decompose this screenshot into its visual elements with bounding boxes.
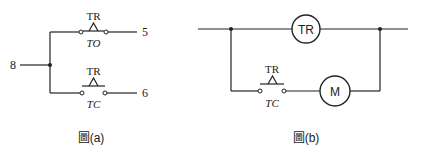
- terminal-6-label: 6: [142, 86, 148, 100]
- junction-dot: [48, 63, 52, 67]
- coil-label: TR: [298, 23, 314, 37]
- upper-contact-relay-label: TR: [86, 10, 101, 22]
- figure-b-caption: 圖(b): [293, 131, 320, 145]
- figure-a: 8 TR TO 5 TR TC 6 圖(a): [10, 10, 148, 145]
- contact-relay-label: TR: [265, 63, 280, 75]
- terminal-8-label: 8: [10, 58, 16, 72]
- timed-close-contact-icon: [80, 78, 107, 95]
- lower-contact-type-label: TC: [87, 98, 101, 110]
- motor-label: M: [330, 85, 340, 99]
- figure-b: TR TR TC M 圖(b): [198, 15, 408, 145]
- upper-contact-type-label: TO: [87, 37, 101, 49]
- timed-open-contact-icon: [79, 23, 108, 34]
- terminal-5-label: 5: [142, 25, 148, 39]
- figure-a-caption: 圖(a): [78, 131, 105, 145]
- lower-contact-relay-label: TR: [86, 65, 101, 77]
- timed-close-contact-icon: [258, 76, 286, 93]
- contact-type-label: TC: [265, 97, 279, 109]
- relay-diagram: 8 TR TO 5 TR TC 6 圖(a): [0, 0, 422, 153]
